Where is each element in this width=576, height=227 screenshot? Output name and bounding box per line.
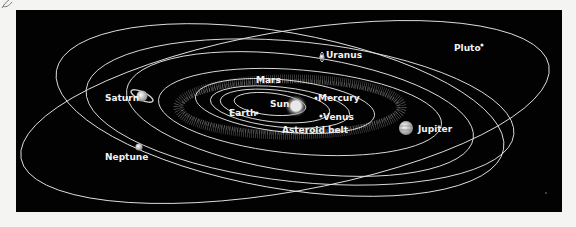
neptune-icon <box>135 143 142 150</box>
star-dot <box>545 192 547 194</box>
orbit-neptune <box>43 0 517 226</box>
label-sun: Sun <box>270 99 289 109</box>
pen-mark-icon <box>0 0 14 10</box>
label-venus: Venus <box>323 112 354 122</box>
label-earth: Earth <box>229 108 256 118</box>
solar-system-diagram: Sun Mercury Venus Earth Mars Asteroid be… <box>0 0 576 227</box>
label-mercury: Mercury <box>318 93 360 103</box>
label-pluto: Pluto <box>454 43 481 53</box>
uranus-icon <box>319 52 324 62</box>
label-mars: Mars <box>256 75 281 85</box>
orbit-pluto <box>7 0 563 227</box>
jupiter-icon <box>399 121 413 135</box>
pluto-icon <box>480 43 483 46</box>
label-neptune: Neptune <box>105 152 148 162</box>
label-asteroid-belt: Asteroid belt <box>282 125 349 135</box>
label-saturn: Saturn <box>105 93 139 103</box>
label-jupiter: Jupiter <box>417 124 453 134</box>
label-uranus: Uranus <box>326 50 362 60</box>
